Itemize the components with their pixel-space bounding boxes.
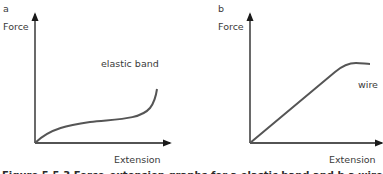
- panel-a-curve-label: elastic band: [101, 58, 159, 69]
- panel-a-x-axis-label: Extension: [114, 154, 161, 165]
- panel-b: b Force wire Extension: [218, 3, 382, 165]
- panel-a: a Force elastic band Extension: [3, 3, 170, 165]
- panel-a-y-axis-label: Force: [3, 21, 29, 32]
- panel-b-label: b: [218, 3, 224, 14]
- panel-b-wire-curve: [250, 63, 370, 143]
- panel-b-curve-label: wire: [358, 79, 378, 90]
- panel-a-elastic-band-curve: [35, 89, 157, 143]
- figure: a Force elastic band Extension b Force w…: [0, 0, 383, 174]
- panel-b-x-axis-label: Extension: [329, 154, 376, 165]
- figure-caption: Figure 5.5.3 Force–extension graphs for …: [2, 170, 383, 174]
- panel-b-y-axis-label: Force: [218, 21, 244, 32]
- panel-a-label: a: [3, 3, 9, 14]
